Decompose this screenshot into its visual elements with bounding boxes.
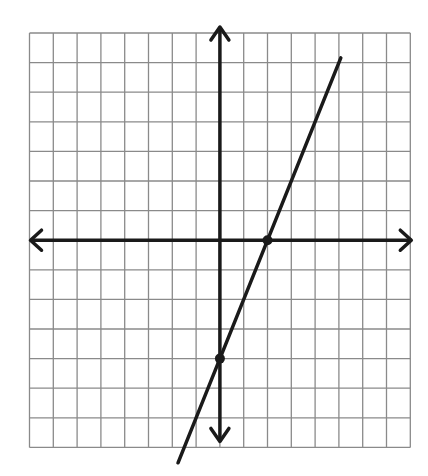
- plotted-line: [178, 58, 341, 463]
- x-intercept-point: [263, 235, 273, 245]
- axes: [31, 27, 412, 441]
- y-intercept-point: [215, 354, 225, 364]
- coordinate-graph: [0, 0, 428, 476]
- line-series: [178, 58, 341, 463]
